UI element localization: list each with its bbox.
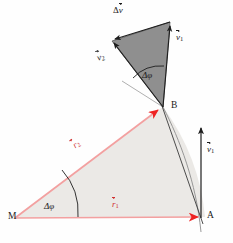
velocity-triangle-fill	[112, 22, 170, 107]
sector-arc-fill	[14, 107, 205, 218]
diagram-canvas: Δv v1 v2 Δφ B v1 r2 Δφ r1 M A	[0, 0, 233, 243]
diagram-svg	[0, 0, 233, 243]
r1-arrow	[15, 217, 198, 218]
